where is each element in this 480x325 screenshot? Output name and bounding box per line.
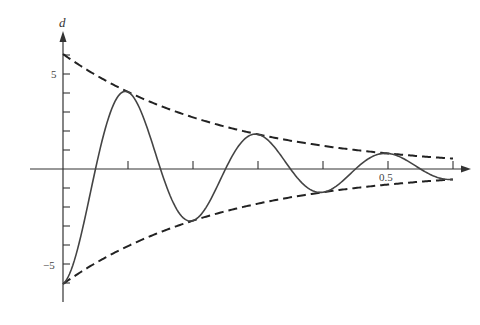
lower-envelope-line	[63, 179, 453, 284]
upper-envelope-line	[63, 54, 453, 159]
damped-oscillation-chart: d 5 −5 0.5	[0, 0, 480, 325]
x-tick-label-0-5: 0.5	[379, 171, 393, 183]
damped-oscillation-curve	[63, 91, 453, 284]
y-tick-label-neg5: −5	[43, 259, 55, 271]
y-axis-label: d	[59, 15, 66, 30]
y-axis-arrow-icon	[60, 31, 67, 42]
x-axis-arrow-icon	[461, 166, 471, 173]
y-tick-label-5: 5	[51, 68, 57, 80]
